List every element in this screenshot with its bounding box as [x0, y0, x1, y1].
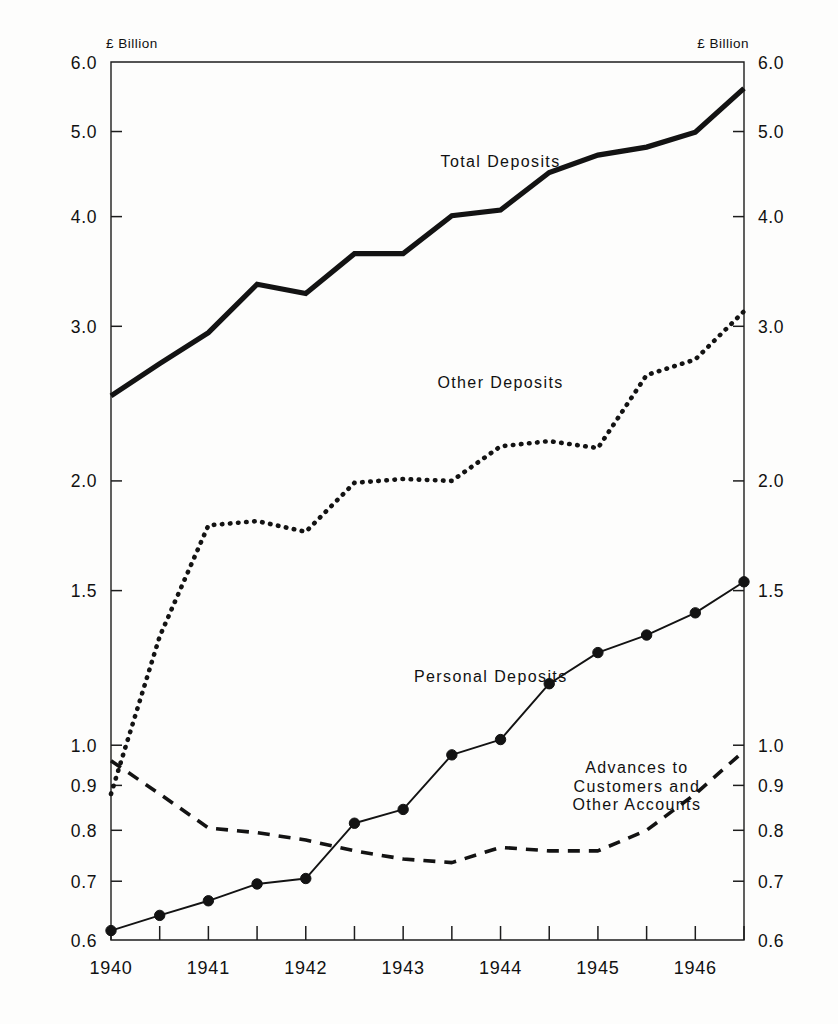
- x-tick-label-1940: 1940: [89, 958, 132, 978]
- data-point-marker: [154, 910, 164, 920]
- advances-label-line1: Advances to: [585, 759, 688, 776]
- other-deposits-label: Other Deposits: [437, 374, 563, 391]
- y-tick-label-left: 6.0: [71, 53, 97, 73]
- data-point-marker: [690, 608, 700, 618]
- data-point-marker: [349, 818, 359, 828]
- y-tick-label-right: 1.5: [758, 581, 784, 601]
- y-tick-label-left: 2.0: [71, 471, 97, 491]
- series-line-other-deposits: [111, 311, 744, 794]
- data-point-marker: [301, 873, 311, 883]
- x-tick-label-1941: 1941: [187, 958, 230, 978]
- y-tick-label-left: 4.0: [71, 207, 97, 227]
- x-tick-label-1945: 1945: [576, 958, 619, 978]
- data-point-marker: [447, 750, 457, 760]
- data-point-marker: [203, 896, 213, 906]
- y-axis-unit-left: £ Billion: [106, 36, 158, 51]
- data-point-marker: [593, 647, 603, 657]
- y-tick-label-right: 0.9: [758, 776, 784, 796]
- data-point-marker: [398, 804, 408, 814]
- data-point-marker: [252, 879, 262, 889]
- data-point-marker: [641, 630, 651, 640]
- y-tick-label-left: 0.9: [71, 776, 97, 796]
- axis-tick-labels: 6.06.05.05.04.04.03.03.02.02.01.51.51.01…: [71, 36, 784, 978]
- y-tick-label-right: 6.0: [758, 53, 784, 73]
- y-tick-label-left: 1.5: [71, 581, 97, 601]
- x-tick-label-1944: 1944: [479, 958, 522, 978]
- line-chart: 6.06.05.05.04.04.03.03.02.02.01.51.51.01…: [0, 0, 838, 1024]
- y-tick-label-right: 5.0: [758, 122, 784, 142]
- y-tick-label-left: 1.0: [71, 736, 97, 756]
- y-tick-label-left: 0.8: [71, 821, 97, 841]
- y-tick-label-right: 4.0: [758, 207, 784, 227]
- y-tick-label-right: 0.6: [758, 931, 784, 951]
- y-tick-label-left: 0.6: [71, 931, 97, 951]
- advances-label-line2: Customers and: [574, 778, 701, 795]
- x-tick-label-1943: 1943: [382, 958, 425, 978]
- data-point-marker: [495, 734, 505, 744]
- x-tick-label-1942: 1942: [284, 958, 327, 978]
- y-tick-label-right: 0.8: [758, 821, 784, 841]
- chart-container: 6.06.05.05.04.04.03.03.02.02.01.51.51.01…: [0, 0, 838, 1024]
- data-point-marker: [739, 577, 749, 587]
- personal-deposits-label: Personal Deposits: [414, 668, 568, 685]
- advances-label-line3: Other Accounts: [572, 796, 701, 813]
- y-tick-label-left: 5.0: [71, 122, 97, 142]
- y-tick-label-right: 0.7: [758, 872, 784, 892]
- y-tick-label-left: 3.0: [71, 317, 97, 337]
- x-tick-label-1946: 1946: [674, 958, 717, 978]
- data-point-marker: [106, 925, 116, 935]
- series-annotations: Total DepositsOther DepositsPersonal Dep…: [414, 153, 701, 813]
- y-tick-label-right: 3.0: [758, 317, 784, 337]
- total-deposits-label: Total Deposits: [440, 153, 560, 170]
- y-tick-label-left: 0.7: [71, 872, 97, 892]
- y-tick-label-right: 1.0: [758, 736, 784, 756]
- series-line-total-deposits: [111, 88, 744, 396]
- y-tick-label-right: 2.0: [758, 471, 784, 491]
- y-axis-unit-right: £ Billion: [697, 36, 749, 51]
